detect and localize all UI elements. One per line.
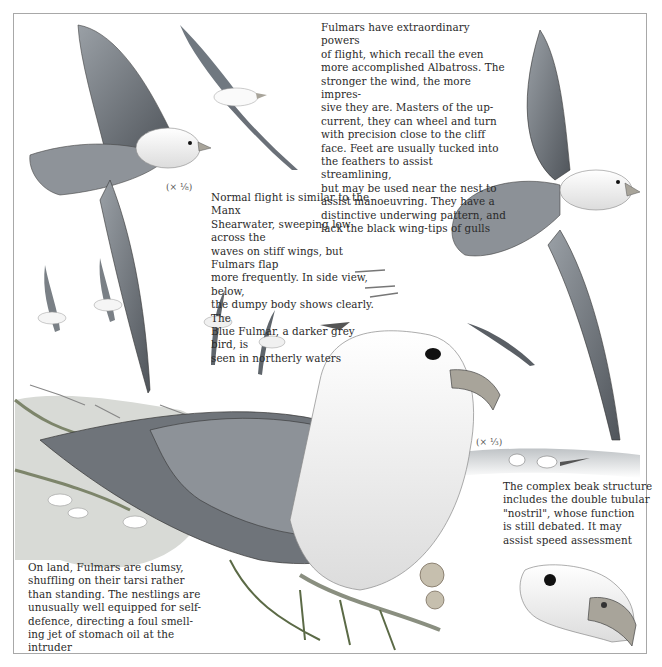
caption-on-land: On land, Fulmars are clumsy, shuffling o… (28, 561, 203, 655)
caption-normal-flight: Normal flight is similar to the Manx She… (211, 191, 381, 365)
sea-swimming-fulmars (440, 449, 640, 478)
scale-label-large-bird: (× ⅛) (166, 182, 192, 192)
caption-beak-text: The complex beak structure includes the … (503, 480, 653, 547)
fulmar-head-beak-detail (520, 565, 636, 646)
caption-normal-flight-text: Normal flight is similar to the Manx She… (211, 191, 381, 365)
caption-beak-structure: The complex beak structure includes the … (503, 480, 653, 547)
scale-label-beak: (× ⅓) (476, 437, 502, 447)
caption-on-land-text: On land, Fulmars are clumsy, shuffling o… (28, 561, 203, 655)
large-fulmar-flying-left (30, 25, 211, 393)
